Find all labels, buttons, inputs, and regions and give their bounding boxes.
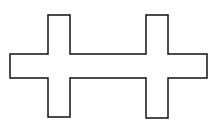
double-cross-shape	[10, 15, 207, 118]
diagram-canvas	[0, 0, 216, 129]
